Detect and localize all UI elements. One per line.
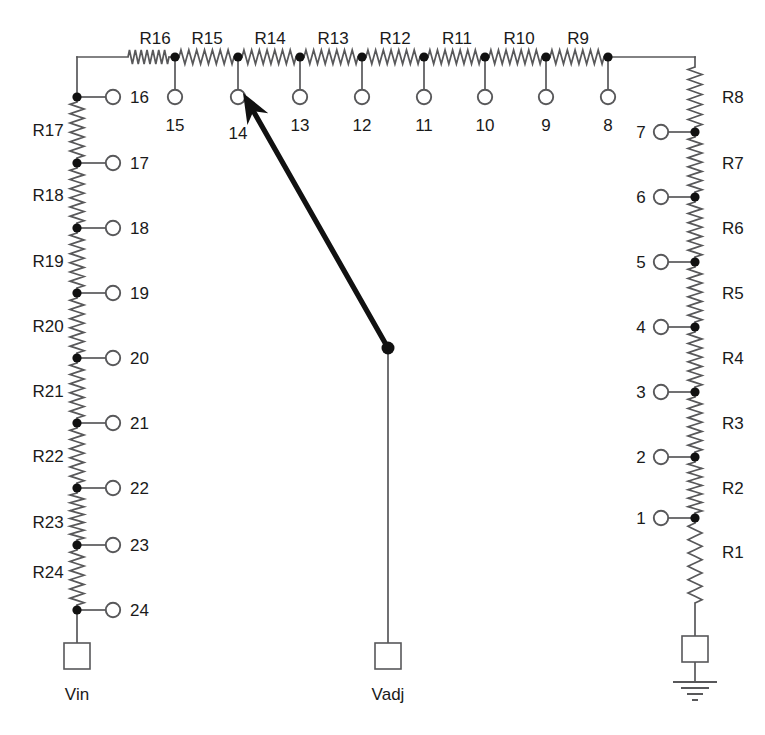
- tap-label-8: 8: [603, 116, 612, 135]
- resistor-R19: [70, 233, 84, 288]
- tap-label-22: 22: [130, 479, 149, 498]
- resistor-R18: [70, 168, 84, 223]
- junction-dot-left-21: [72, 418, 81, 427]
- resistor-label-R9: R9: [567, 29, 589, 48]
- resistor-R4: [688, 332, 702, 387]
- port-box-vin[interactable]: [64, 643, 90, 669]
- resistor-label-R24: R24: [32, 563, 63, 582]
- tap-terminal-10[interactable]: [478, 90, 492, 104]
- terminals-layer: [72, 52, 699, 617]
- junction-dot-right-3: [690, 387, 699, 396]
- resistor-R17: [70, 102, 84, 158]
- tap-label-21: 21: [130, 414, 149, 433]
- resistor-R12: [366, 50, 420, 64]
- tap-terminal-6[interactable]: [654, 190, 668, 204]
- port-box-vadj[interactable]: [375, 643, 401, 669]
- resistor-label-R13: R13: [317, 29, 348, 48]
- resistor-label-R19: R19: [32, 252, 63, 271]
- tap-label-3: 3: [636, 383, 645, 402]
- resistor-R15: [179, 50, 234, 64]
- tap-terminal-14[interactable]: [231, 90, 245, 104]
- resistor-R23: [70, 493, 84, 540]
- junction-dot-right-2: [690, 452, 699, 461]
- resistor-R10: [489, 50, 542, 64]
- junction-dot-right-6: [690, 192, 699, 201]
- tap-terminal-19[interactable]: [106, 286, 120, 300]
- junction-dot-left-16: [72, 92, 81, 101]
- junction-dot-right-1: [690, 513, 699, 522]
- tap-label-11: 11: [415, 116, 433, 135]
- resistor-label-R7: R7: [722, 154, 744, 173]
- wiper-shaft[interactable]: [251, 107, 388, 348]
- resistor-R3: [688, 397, 702, 452]
- tap-label-2: 2: [636, 448, 645, 467]
- resistor-label-R11: R11: [442, 29, 472, 48]
- junction-dot-top-15: [170, 52, 179, 61]
- tap-label-23: 23: [130, 536, 149, 555]
- schematic-svg: 15141312111098R16R15R14R13R12R11R10R9161…: [0, 0, 765, 735]
- wiper-arrow[interactable]: [243, 93, 395, 355]
- tap-label-14: 14: [229, 124, 248, 143]
- resistor-R2: [688, 462, 702, 513]
- junction-dot-right-7: [690, 127, 699, 136]
- tap-label-7: 7: [636, 123, 645, 142]
- wires-layer: [77, 57, 695, 682]
- port-label-vadj: Vadj: [372, 685, 405, 704]
- resistor-label-R17: R17: [32, 121, 63, 140]
- tap-label-19: 19: [130, 284, 149, 303]
- resistor-R6: [688, 202, 702, 257]
- tap-label-15: 15: [166, 116, 185, 135]
- junction-dot-left-24: [72, 605, 81, 614]
- junction-dot-top-9: [541, 52, 550, 61]
- tap-terminal-9[interactable]: [539, 90, 553, 104]
- tap-label-10: 10: [476, 116, 495, 135]
- tap-terminal-20[interactable]: [106, 351, 120, 365]
- resistor-label-R16: R16: [139, 29, 170, 48]
- resistor-label-R6: R6: [722, 219, 744, 238]
- resistor-R14: [242, 50, 296, 64]
- junction-dot-left-20: [72, 353, 81, 362]
- tap-label-17: 17: [130, 154, 149, 173]
- tap-terminal-16[interactable]: [106, 90, 120, 104]
- resistor-label-R18: R18: [32, 186, 63, 205]
- tap-label-5: 5: [636, 253, 645, 272]
- tap-label-16: 16: [130, 88, 149, 107]
- tap-terminal-3[interactable]: [654, 385, 668, 399]
- resistor-R20: [70, 298, 84, 353]
- tap-terminal-12[interactable]: [355, 90, 369, 104]
- tap-label-1: 1: [636, 509, 645, 528]
- resistor-label-R3: R3: [722, 414, 744, 433]
- tap-terminal-23[interactable]: [106, 538, 120, 552]
- tap-terminal-22[interactable]: [106, 481, 120, 495]
- tap-terminal-15[interactable]: [168, 90, 182, 104]
- tap-terminal-1[interactable]: [654, 511, 668, 525]
- tap-label-6: 6: [636, 188, 645, 207]
- resistor-R7: [688, 137, 702, 192]
- port-box-ground[interactable]: [682, 636, 708, 662]
- junction-dot-right-5: [690, 257, 699, 266]
- resistor-label-R1: R1: [722, 543, 744, 562]
- tap-terminal-24[interactable]: [106, 603, 120, 617]
- junction-dot-left-22: [72, 483, 81, 492]
- tap-terminal-5[interactable]: [654, 255, 668, 269]
- resistor-label-R2: R2: [722, 479, 744, 498]
- junction-dot-top-11: [419, 52, 428, 61]
- tap-terminal-13[interactable]: [293, 90, 307, 104]
- tap-terminal-8[interactable]: [601, 90, 615, 104]
- tap-label-9: 9: [541, 116, 550, 135]
- tap-terminal-18[interactable]: [106, 221, 120, 235]
- resistor-R5: [688, 267, 702, 322]
- tap-terminal-7[interactable]: [654, 125, 668, 139]
- junction-dot-top-13: [295, 52, 304, 61]
- junction-dot-right-4: [690, 322, 699, 331]
- tap-label-24: 24: [130, 601, 149, 620]
- resistor-R8: [688, 67, 702, 127]
- tap-terminal-21[interactable]: [106, 416, 120, 430]
- tap-label-13: 13: [291, 116, 310, 135]
- tap-terminal-4[interactable]: [654, 320, 668, 334]
- tap-terminal-11[interactable]: [417, 90, 431, 104]
- resistor-R11: [428, 50, 481, 64]
- tap-terminal-2[interactable]: [654, 450, 668, 464]
- tap-terminal-17[interactable]: [106, 156, 120, 170]
- resistor-R21: [70, 363, 84, 418]
